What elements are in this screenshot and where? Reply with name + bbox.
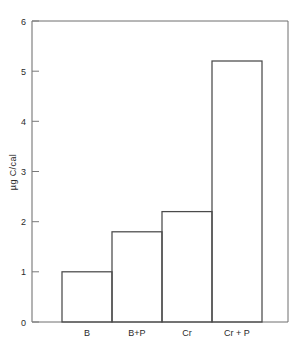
y-tick-label-2: 2: [21, 217, 26, 227]
y-axis-tick-labels: 6 5 4 3 2 1 0: [21, 17, 26, 328]
bar-B: [62, 272, 112, 322]
x-category-label-1: B+P: [128, 328, 145, 338]
y-tick-label-0: 0: [21, 318, 26, 328]
plot-frame: [32, 21, 288, 322]
frame-top-right-border: [32, 21, 288, 322]
x-axis-category-labels: B B+P Cr Cr + P: [84, 328, 250, 338]
bar-Cr-plus-P: [212, 61, 262, 322]
y-axis-title-group: µg C/cal: [8, 154, 18, 190]
x-category-label-3: Cr + P: [224, 328, 250, 338]
y-axis-title: µg C/cal: [8, 154, 18, 190]
bar-B-plus-P: [112, 232, 162, 322]
bar-series: [62, 61, 262, 322]
bar-Cr: [162, 212, 212, 322]
chart-canvas: 6 5 4 3 2 1 0 µg C/cal B B+P Cr Cr + P: [0, 0, 304, 352]
y-tick-label-6: 6: [21, 17, 26, 27]
y-tick-label-5: 5: [21, 67, 26, 77]
y-axis-ticks: [32, 21, 39, 322]
y-tick-label-1: 1: [21, 267, 26, 277]
x-category-label-0: B: [84, 328, 90, 338]
bar-chart-figure: 6 5 4 3 2 1 0 µg C/cal B B+P Cr Cr + P: [0, 0, 304, 352]
x-category-label-2: Cr: [182, 328, 192, 338]
y-tick-label-3: 3: [21, 167, 26, 177]
y-tick-label-4: 4: [21, 117, 26, 127]
